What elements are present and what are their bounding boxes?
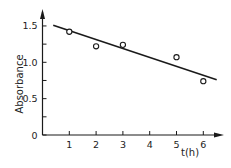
fit-line — [53, 25, 216, 80]
y-tick-label: 1.5 — [22, 20, 37, 31]
x-tick-label: 3 — [120, 139, 126, 150]
x-tick-label: 5 — [173, 139, 179, 150]
data-point-circle-icon — [120, 42, 125, 47]
absorbance-chart: 00.51.01.5 123456 t(h) Absorbance — [0, 0, 231, 168]
x-axis-label: t(h) — [181, 147, 199, 158]
data-point-circle-icon — [201, 79, 206, 84]
y-tick-label: 0 — [31, 130, 37, 141]
fit-line-path — [53, 25, 216, 80]
x-tick-label: 2 — [93, 139, 99, 150]
x-tick-label: 1 — [66, 139, 72, 150]
data-point-circle-icon — [174, 55, 179, 60]
x-tick-label: 6 — [200, 139, 206, 150]
data-point-circle-icon — [67, 29, 72, 34]
x-axis-arrow-icon — [214, 133, 224, 138]
y-axis-label: Absorbance — [14, 54, 25, 113]
y-axis-arrow-icon — [40, 9, 45, 19]
x-tick-label: 4 — [147, 139, 153, 150]
data-point-circle-icon — [94, 44, 99, 49]
